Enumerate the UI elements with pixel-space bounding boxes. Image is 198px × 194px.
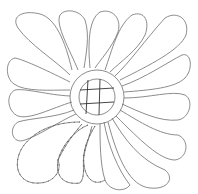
crosshatch-grid xyxy=(80,79,114,115)
center-ring xyxy=(70,70,124,124)
stitched-feathers xyxy=(17,122,105,183)
feather-lobes xyxy=(7,11,190,190)
quilt-pattern xyxy=(0,0,198,194)
